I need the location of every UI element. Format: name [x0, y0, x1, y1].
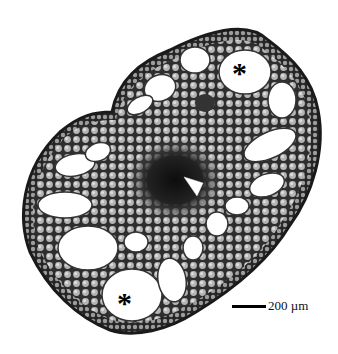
micrograph-figure: * * 200 µm [0, 0, 338, 354]
air-space-marker-top: * [232, 58, 247, 88]
air-space-marker-bottom: * [117, 288, 132, 318]
scale-bar: 200 µm [232, 298, 308, 314]
scale-bar-label: 200 µm [268, 298, 308, 314]
dark-cell [195, 94, 215, 112]
central-stele [129, 140, 221, 220]
scale-bar-line [232, 305, 266, 308]
